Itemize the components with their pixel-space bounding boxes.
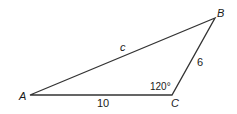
- vertex-label-c: C: [171, 97, 179, 109]
- side-label-ac: 10: [97, 97, 109, 109]
- triangle-diagram: A B C c 10 6 120°: [0, 0, 237, 114]
- side-label-c: c: [120, 41, 126, 53]
- vertex-label-a: A: [18, 90, 26, 102]
- triangle-abc: [30, 18, 215, 95]
- side-label-bc: 6: [197, 56, 203, 68]
- angle-label-c: 120°: [150, 81, 171, 92]
- vertex-label-b: B: [217, 7, 224, 19]
